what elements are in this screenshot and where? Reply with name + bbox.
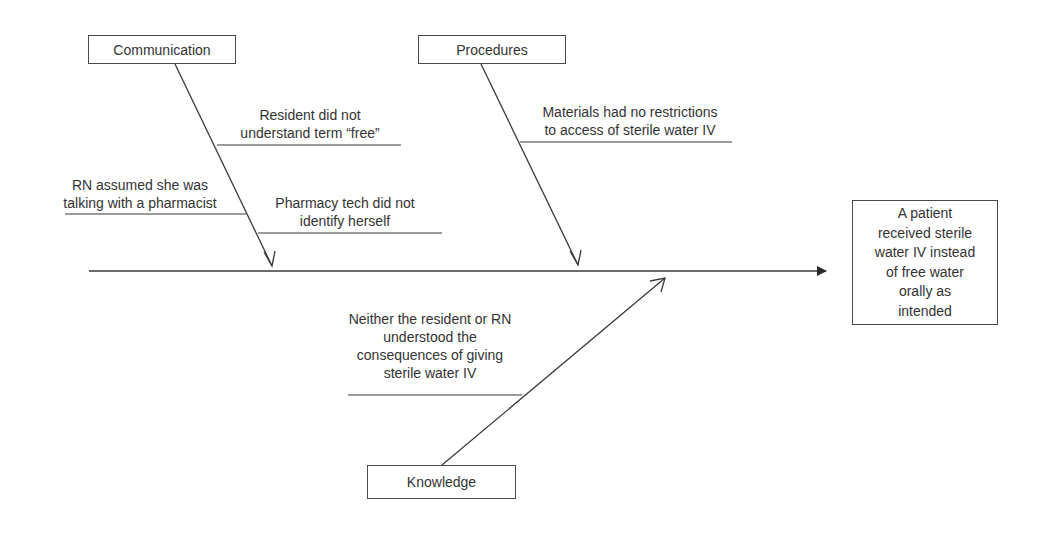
cause-label-pharmacy-tech: Pharmacy tech did not identify herself xyxy=(255,194,435,230)
cause-label-resident: Resident did not understand term “free” xyxy=(230,106,390,142)
bone-procedures xyxy=(481,64,578,265)
cause-label-materials: Materials had no restrictions to access … xyxy=(525,103,735,139)
effect-box: A patient received sterile water IV inst… xyxy=(852,200,998,325)
category-label: Communication xyxy=(113,42,210,58)
bone-communication xyxy=(175,64,272,266)
category-label: Procedures xyxy=(456,42,528,58)
category-box-knowledge: Knowledge xyxy=(367,465,516,499)
category-box-procedures: Procedures xyxy=(418,35,566,64)
cause-label-rn: RN assumed she was talking with a pharma… xyxy=(40,176,240,212)
effect-text: A patient received sterile water IV inst… xyxy=(875,204,975,321)
cause-label-knowledge: Neither the resident or RN understood th… xyxy=(330,310,530,382)
category-label: Knowledge xyxy=(407,474,476,490)
category-box-communication: Communication xyxy=(88,35,236,64)
